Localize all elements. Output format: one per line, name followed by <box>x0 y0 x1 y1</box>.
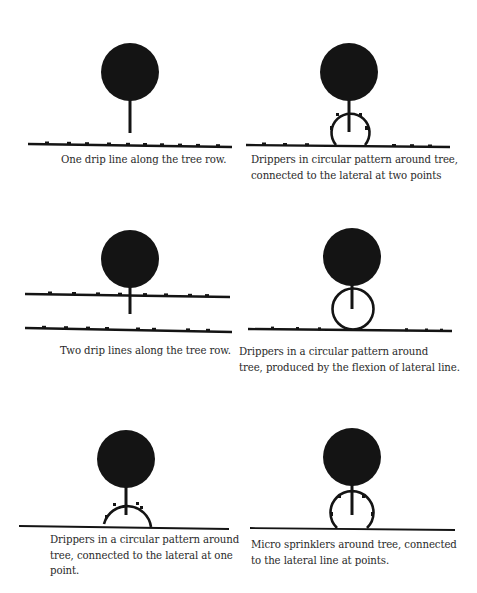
caption-line: Two drip lines along the tree row. <box>60 343 231 359</box>
tree-canopy-icon <box>101 230 159 288</box>
caption-circular-flexion: Drippers in a circular pattern around tr… <box>239 344 460 375</box>
panel-circular-two-points <box>246 43 450 148</box>
drip-irrigation-layouts-diagram <box>0 0 477 593</box>
drip-lateral-line-upper <box>25 294 230 297</box>
panel-micro-sprinklers <box>250 428 455 530</box>
caption-line: tree, connected to the lateral at one <box>50 548 239 564</box>
caption-line: Micro sprinklers around tree, connected <box>251 537 457 553</box>
caption-line: Drippers in circular pattern around tree… <box>251 152 458 168</box>
panel-two-drip-lines <box>25 230 232 332</box>
caption-line: One drip line along the tree row. <box>61 152 226 168</box>
caption-line: point. <box>50 563 239 579</box>
caption-circular-one-point: Drippers in a circular pattern around tr… <box>50 532 239 579</box>
panel-circular-flexion <box>248 228 452 332</box>
tree-canopy-icon <box>101 43 159 101</box>
caption-two-drip-lines: Two drip lines along the tree row. <box>60 343 231 359</box>
caption-line: to the lateral line at points. <box>251 553 457 569</box>
caption-micro-sprinklers: Micro sprinklers around tree, connected … <box>251 537 457 568</box>
tree-canopy-icon <box>323 428 381 486</box>
drip-lateral-line <box>248 329 452 331</box>
caption-line: tree, produced by the flexion of lateral… <box>239 360 460 376</box>
caption-circular-two-points: Drippers in circular pattern around tree… <box>251 152 458 183</box>
tree-canopy-icon <box>97 430 155 488</box>
drip-lateral-line <box>246 145 450 147</box>
caption-line: Drippers in a circular pattern around <box>239 344 460 360</box>
caption-line: Drippers in a circular pattern around <box>50 532 239 548</box>
panel-one-drip-line <box>28 43 232 147</box>
caption-line: connected to the lateral at two points <box>251 168 458 184</box>
drip-lateral-line <box>250 528 455 530</box>
drip-lateral-line-lower <box>25 328 232 332</box>
tree-canopy-icon <box>323 228 381 286</box>
panel-circular-one-point <box>19 430 229 529</box>
caption-one-drip-line: One drip line along the tree row. <box>61 152 226 168</box>
drip-lateral-line <box>19 526 229 529</box>
tree-canopy-icon <box>320 43 378 101</box>
dripper-emitters <box>105 502 143 518</box>
